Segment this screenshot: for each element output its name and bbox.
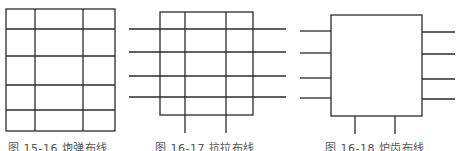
figure-3-box-with-stubs: [300, 15, 455, 134]
fig1-outer-box: [6, 9, 115, 131]
fig3-caption: 图 16-18 炉齿布线: [325, 139, 425, 151]
fig3-outer-box: [331, 15, 422, 116]
figures-canvas: [0, 0, 456, 151]
figure-2-extended-grid: [129, 12, 286, 133]
fig2-outer-box: [160, 12, 253, 115]
fig2-caption: 图 16-17 抗拉布线: [155, 139, 255, 151]
fig1-caption: 图 15-16 炮弹布线: [8, 139, 108, 151]
figure-1-grid: [6, 9, 115, 131]
